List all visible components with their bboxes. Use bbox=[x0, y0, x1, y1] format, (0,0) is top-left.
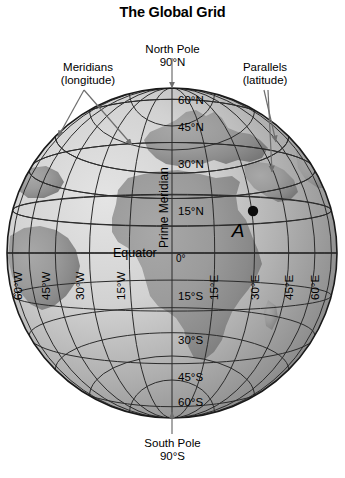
lon-label-60W: 60°W bbox=[12, 272, 24, 300]
lat-label-60S: 60°S bbox=[178, 396, 203, 408]
point-a-label: A bbox=[231, 220, 245, 241]
lon-label-15W: 15°W bbox=[115, 272, 127, 300]
lon-label-15E: 15°E bbox=[208, 275, 220, 300]
lat-label-15N: 15°N bbox=[178, 205, 204, 217]
lat-label-30N: 30°N bbox=[178, 158, 204, 170]
equator-label: Equator bbox=[113, 246, 157, 260]
lat-label-15S: 15°S bbox=[178, 290, 203, 302]
lat-label-60N: 60°N bbox=[178, 94, 204, 106]
lon-label-30W: 30°W bbox=[74, 272, 86, 300]
globe-diagram: A 60°N 45°N 30°N 15°N 0° 15°S 30°S 45°S … bbox=[0, 0, 345, 478]
lat-label-0: 0° bbox=[176, 253, 186, 264]
lat-label-30S: 30°S bbox=[178, 334, 203, 346]
lon-label-60E: 60°E bbox=[309, 275, 321, 300]
prime-meridian-label: Prime Meridian bbox=[157, 167, 171, 248]
point-a-dot bbox=[248, 206, 258, 216]
lat-label-45N: 45°N bbox=[178, 121, 204, 133]
lon-label-45E: 45°E bbox=[283, 275, 295, 300]
figure-global-grid: The Global Grid North Pole 90°N South Po… bbox=[0, 0, 345, 478]
globe-svg: A 60°N 45°N 30°N 15°N 0° 15°S 30°S 45°S … bbox=[0, 0, 345, 478]
lat-label-45S: 45°S bbox=[178, 371, 203, 383]
lon-label-30E: 30°E bbox=[249, 275, 261, 300]
lon-label-45W: 45°W bbox=[40, 272, 52, 300]
